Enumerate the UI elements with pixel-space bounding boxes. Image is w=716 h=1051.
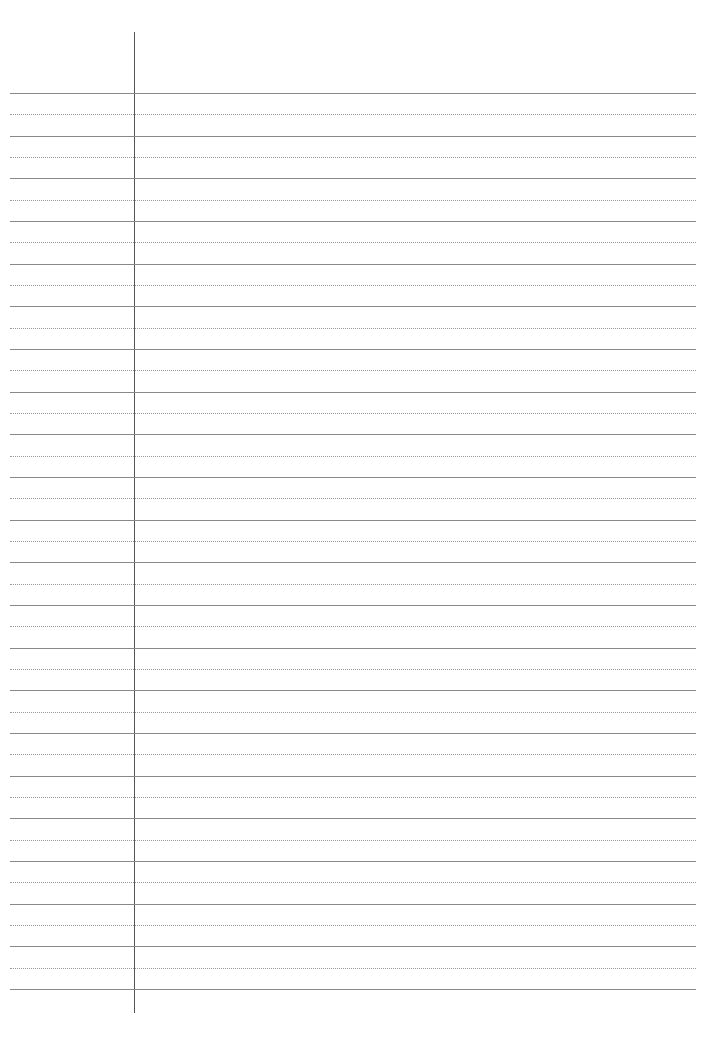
ruled-line [10,562,696,563]
ruled-line [10,733,696,734]
ruled-line [10,264,696,265]
ruled-line [10,776,696,777]
dotted-guide-line [10,626,696,627]
dotted-guide-line [10,712,696,713]
dotted-guide-line [10,925,696,926]
ruled-line [10,136,696,137]
ruled-line [10,690,696,691]
ruled-line [10,648,696,649]
ruled-line [10,861,696,862]
dotted-guide-line [10,413,696,414]
dotted-guide-line [10,754,696,755]
ruled-line [10,904,696,905]
ruled-line [10,392,696,393]
ruled-line [10,477,696,478]
dotted-guide-line [10,200,696,201]
dotted-guide-line [10,285,696,286]
margin-line [134,32,135,1013]
ruled-line [10,605,696,606]
dotted-guide-line [10,370,696,371]
ruled-line [10,221,696,222]
dotted-guide-line [10,797,696,798]
dotted-guide-line [10,882,696,883]
ruled-line [10,520,696,521]
dotted-guide-line [10,498,696,499]
ruled-line [10,434,696,435]
dotted-guide-line [10,114,696,115]
ruled-line [10,989,696,990]
dotted-guide-line [10,157,696,158]
ruled-line [10,946,696,947]
dotted-guide-line [10,840,696,841]
ruled-line [10,93,696,94]
ruled-line [10,818,696,819]
dotted-guide-line [10,541,696,542]
dotted-guide-line [10,242,696,243]
ruled-line [10,349,696,350]
dotted-guide-line [10,584,696,585]
ruled-line [10,306,696,307]
ruled-line [10,178,696,179]
dotted-guide-line [10,328,696,329]
dotted-guide-line [10,669,696,670]
dotted-guide-line [10,968,696,969]
dotted-guide-line [10,456,696,457]
